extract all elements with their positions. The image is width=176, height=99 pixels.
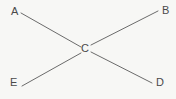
vertex-label-d: D (156, 77, 164, 88)
vertex-label-c: C (81, 43, 89, 54)
vertex-label-e: E (10, 77, 17, 88)
vertex-label-b: B (162, 5, 169, 16)
segment-e-c (22, 53, 81, 86)
segment-c-b (91, 11, 158, 45)
geometry-diagram: A B C D E (0, 0, 176, 99)
segment-c-d (91, 52, 152, 83)
vertex-label-a: A (11, 6, 18, 17)
segment-a-c (21, 13, 81, 47)
